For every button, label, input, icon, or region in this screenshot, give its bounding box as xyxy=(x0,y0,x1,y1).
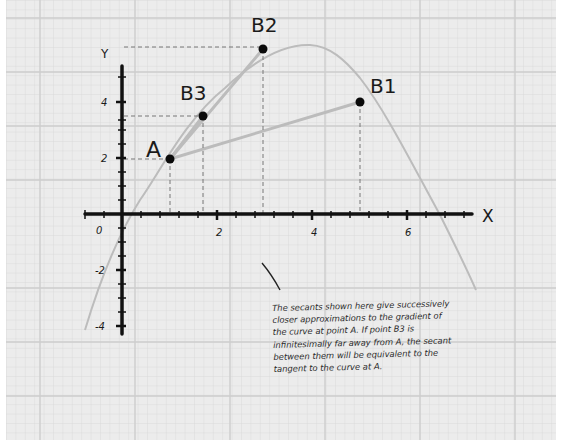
tick-label-y2: 2 xyxy=(101,153,107,164)
tick-label-0: 0 xyxy=(96,225,102,236)
tick-label-x2: 2 xyxy=(216,227,222,238)
annotation-note: The secants shown here give successively… xyxy=(272,297,454,375)
label-b3: B3 xyxy=(180,81,206,105)
tick-label-x6: 6 xyxy=(405,227,411,238)
point-b1 xyxy=(356,98,365,107)
label-b1: B1 xyxy=(370,74,396,98)
point-a xyxy=(166,155,175,164)
tick-label-yn4: -4 xyxy=(95,321,105,332)
point-b3 xyxy=(199,112,208,121)
tick-label-x4: 4 xyxy=(311,227,317,238)
label-a: A xyxy=(146,137,161,162)
y-axis-label: Y xyxy=(100,47,109,61)
chart-canvas: X Y 0 2 4 6 4 2 -2 -4 A B3 B2 B1 xyxy=(0,0,562,445)
tick-label-y4: 4 xyxy=(101,97,107,108)
label-b2: B2 xyxy=(251,13,277,37)
tick-label-yn2: -2 xyxy=(95,265,105,276)
point-b2 xyxy=(259,45,268,54)
x-axis-label: X xyxy=(482,206,494,226)
